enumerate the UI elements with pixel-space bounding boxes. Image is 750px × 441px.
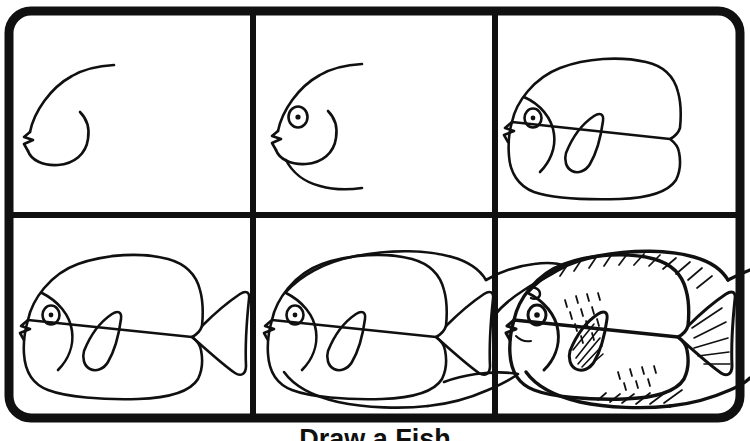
step3-pupil — [531, 116, 536, 121]
tutorial-sheet: Draw a Fish — [0, 0, 750, 441]
step4-pupil — [49, 313, 54, 318]
step6-pupil — [534, 312, 540, 318]
fish-drawing-steps-illustration — [0, 0, 750, 441]
step2-pupil — [295, 114, 300, 119]
step5-pupil — [293, 313, 298, 318]
